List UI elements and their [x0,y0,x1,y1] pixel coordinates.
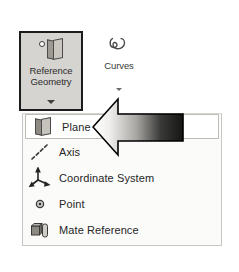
plane-face-front-icon [53,38,63,60]
point-dot-icon [29,193,51,215]
menu-item-coordinate-system-label: Coordinate System [59,172,154,184]
menu-item-point[interactable]: Point [23,191,221,217]
chevron-down-icon[interactable] [47,100,55,104]
ribbon-toolbar: Reference Geometry Curves [0,0,239,113]
curve-spline-icon [106,34,132,60]
curves-button[interactable]: Curves [90,31,148,91]
curves-label: Curves [104,60,134,71]
screenshot-root: Reference Geometry Curves Plane [0,0,239,272]
menu-item-axis-label: Axis [59,146,80,158]
reference-geometry-flyout-menu: Plane Axis Coordinate System [22,113,222,246]
menu-item-mate-reference[interactable]: Mate Reference [23,217,221,243]
menu-item-plane-label: Plane [62,121,91,133]
plane-icon [36,38,66,62]
chevron-down-icon-curves[interactable] [116,88,122,91]
menu-item-axis[interactable]: Axis [23,139,221,165]
reference-geometry-button[interactable]: Reference Geometry [19,31,83,111]
coordinate-triad-icon [29,167,51,189]
menu-item-coordinate-system[interactable]: Coordinate System [23,165,221,191]
menu-item-plane[interactable]: Plane [25,114,219,139]
axis-dashed-line-icon [29,141,51,163]
plane-face-front-icon [41,117,51,136]
menu-item-point-label: Point [59,198,85,210]
reference-dot-icon [39,41,45,47]
reference-geometry-label-line2: Geometry [31,76,72,88]
mate-reference-icon [29,219,51,241]
plane-icon [32,116,54,138]
menu-item-mate-reference-label: Mate Reference [59,224,139,236]
